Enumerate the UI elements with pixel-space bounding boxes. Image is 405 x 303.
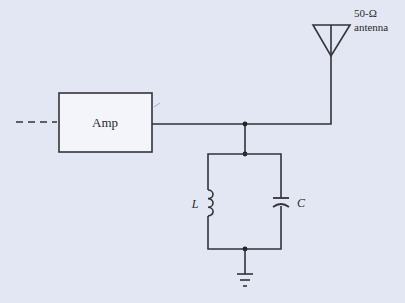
antenna-label-impedance: 50-Ω [354, 7, 377, 19]
lc-tank-wires [208, 154, 281, 249]
inductor-icon [208, 190, 213, 216]
output-wire [152, 25, 331, 124]
capacitor-label: C [297, 196, 306, 210]
amp-label: Amp [92, 115, 118, 130]
stray-mark [154, 103, 160, 107]
inductor-label: L [191, 197, 199, 211]
capacitor-icon [273, 198, 289, 207]
antenna-label-text: antenna [354, 21, 388, 33]
ground-icon [237, 247, 253, 286]
junction-dot-top [243, 122, 248, 127]
circuit-diagram: Amp 50-Ω antenna L [0, 0, 405, 303]
tank-feed-wire [243, 122, 248, 157]
amplifier-block: Amp [59, 93, 152, 152]
